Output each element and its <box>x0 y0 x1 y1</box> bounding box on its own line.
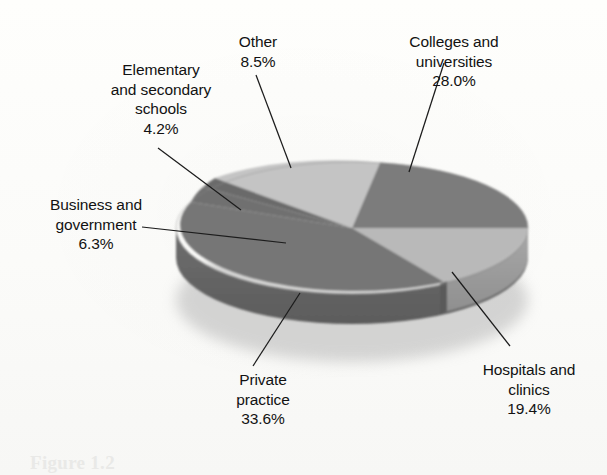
pie-slice-colleges-and-universities <box>352 163 528 228</box>
label-colleges-percent: 28.0% <box>384 71 524 91</box>
label-private-percent: 33.6% <box>203 409 323 429</box>
label-private-line1: Private <box>239 371 287 388</box>
label-hospitals-percent: 19.4% <box>462 399 596 419</box>
label-elementary-percent: 4.2% <box>84 119 238 139</box>
leader-line-other <box>256 75 291 168</box>
label-hospitals-line2: clinics <box>508 381 550 398</box>
label-business-line2: government <box>56 216 137 233</box>
label-elementary-line1: Elementary <box>122 61 199 78</box>
label-colleges-line1: Colleges and <box>409 33 498 50</box>
label-colleges-and-universities: Colleges and universities 28.0% <box>384 32 524 91</box>
figure-container: Colleges and universities 28.0% Other 8.… <box>0 0 607 475</box>
label-hospitals-and-clinics: Hospitals and clinics 19.4% <box>462 360 596 419</box>
label-private-line2: practice <box>236 391 289 408</box>
label-hospitals-line1: Hospitals and <box>483 361 576 378</box>
label-other-line1: Other <box>239 33 277 50</box>
pie-wall-notch <box>440 281 447 314</box>
label-business-and-government: Business and government 6.3% <box>28 195 164 254</box>
label-elementary-line3: schools <box>135 100 187 117</box>
label-private-practice: Private practice 33.6% <box>203 370 323 429</box>
label-colleges-line2: universities <box>416 53 492 70</box>
label-business-line1: Business and <box>50 196 142 213</box>
label-business-percent: 6.3% <box>28 234 164 254</box>
label-elementary-and-secondary-schools: Elementary and secondary schools 4.2% <box>84 60 238 138</box>
label-elementary-line2: and secondary <box>111 81 211 98</box>
figure-caption: Figure 1.2 <box>30 452 115 474</box>
